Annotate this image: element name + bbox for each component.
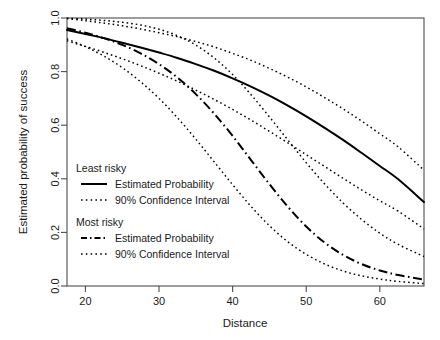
x-tick-label: 30 xyxy=(153,295,165,307)
probability-line-chart: 0.00.20.40.60.81.0 2030405060 Distance E… xyxy=(0,0,440,340)
y-tick-label: 0.6 xyxy=(49,118,61,133)
x-tick-label: 50 xyxy=(300,295,312,307)
legend-entry-label: Estimated Probability xyxy=(115,178,214,190)
x-axis-title: Distance xyxy=(223,317,268,329)
chart-background xyxy=(0,0,440,340)
y-tick-label: 0.4 xyxy=(49,171,61,186)
legend-entry-label: 90% Confidence Interval xyxy=(115,248,229,260)
legend-group-header: Most risky xyxy=(76,216,124,228)
y-tick-label: 0.2 xyxy=(49,225,61,240)
legend-entry-label: Estimated Probability xyxy=(115,232,214,244)
legend-entry-label: 90% Confidence Interval xyxy=(115,194,229,206)
chart-figure: 0.00.20.40.60.81.0 2030405060 Distance E… xyxy=(0,0,440,340)
legend-group-header: Least risky xyxy=(76,162,127,174)
y-tick-label: 0.0 xyxy=(49,278,61,293)
x-tick-label: 20 xyxy=(79,295,91,307)
y-tick-label: 0.8 xyxy=(49,64,61,79)
y-tick-label: 1.0 xyxy=(49,10,61,25)
x-tick-label: 60 xyxy=(374,295,386,307)
y-axis-title: Estimated probability of success xyxy=(17,70,29,235)
x-tick-label: 40 xyxy=(226,295,238,307)
